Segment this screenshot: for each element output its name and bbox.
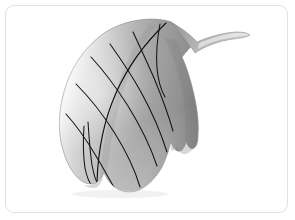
screenshot-canvas: Grayscale 3D rendered leaf with curved p…	[0, 0, 295, 220]
leaf-illustration	[0, 0, 295, 220]
leaf-contact-shadow	[72, 190, 168, 198]
leaf-figure	[0, 0, 295, 220]
